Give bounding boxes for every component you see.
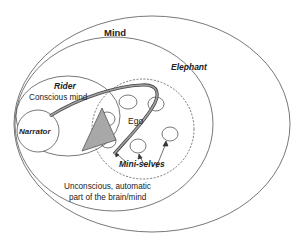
conscious-mind-label: Conscious mind xyxy=(29,93,88,102)
mini-self xyxy=(130,139,146,153)
mini-selves-label: Mini-selves xyxy=(119,159,165,169)
mind-model-diagram: Mind Elephant Rider Conscious mind Narra… xyxy=(0,0,301,251)
mini-self xyxy=(162,127,178,141)
rider-label: Rider xyxy=(54,81,76,91)
triangle-pointer xyxy=(82,108,116,151)
mini-self xyxy=(119,95,137,109)
elephant-label: Elephant xyxy=(171,62,208,72)
mind-label: Mind xyxy=(104,27,126,38)
unconscious-label-line1: Unconscious, automatic xyxy=(64,182,151,191)
ego-label: Ego xyxy=(128,116,143,126)
unconscious-label-line2: part of the brain/mind xyxy=(69,193,147,202)
narrator-label: Narrator xyxy=(19,127,51,136)
